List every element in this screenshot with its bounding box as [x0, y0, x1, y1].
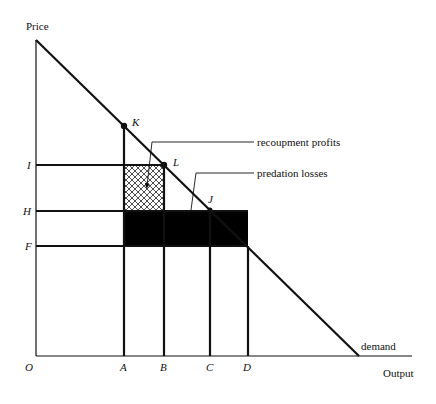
point-J	[208, 208, 213, 213]
predatory-pricing-diagram: Price Output O I H F A B C D K L J deman…	[0, 0, 436, 404]
point-L	[161, 162, 167, 168]
output-label-C: C	[206, 361, 214, 373]
output-label-A: A	[119, 361, 127, 373]
price-label-I: I	[26, 159, 32, 171]
point-label-K: K	[131, 116, 140, 128]
predation-losses-label: predation losses	[257, 167, 328, 179]
predation-leader	[191, 173, 254, 210]
point-label-L: L	[172, 156, 179, 168]
origin-label: O	[25, 361, 33, 373]
point-label-J: J	[208, 193, 214, 205]
price-label-H: H	[22, 205, 32, 217]
x-axis-label: Output	[383, 367, 414, 379]
y-axis-label: Price	[26, 20, 49, 32]
demand-curve	[36, 40, 359, 356]
point-K	[121, 123, 127, 129]
price-label-F: F	[24, 240, 32, 252]
recoupment-profits-area	[124, 165, 164, 211]
output-label-B: B	[160, 361, 167, 373]
recoupment-profits-label: recoupment profits	[257, 136, 340, 148]
demand-label: demand	[361, 340, 396, 352]
output-label-D: D	[242, 361, 251, 373]
